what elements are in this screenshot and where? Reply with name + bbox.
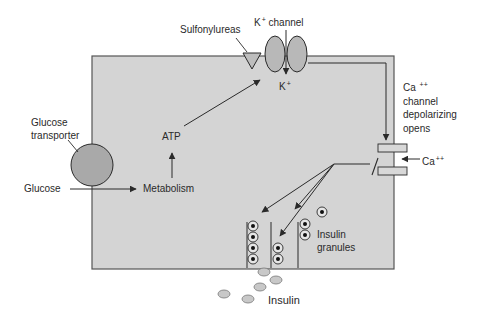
sulfonylureas-label: Sulfonylureas <box>180 24 241 36</box>
k-channel-left-subunit-icon <box>265 36 285 72</box>
insulin-molecule-icon <box>254 283 266 291</box>
insulin-molecule-icon <box>270 276 282 284</box>
ca-channel-ion: Ca <box>403 82 416 93</box>
ca-channel-line3: depolarizing <box>403 108 457 122</box>
ca-channel-charge: ++ <box>420 81 428 88</box>
k-channel-charge: + <box>262 16 266 23</box>
glucose-transporter-label: Glucose transporter <box>31 116 79 142</box>
glucose-transporter-icon <box>71 144 113 186</box>
diagram-graphics <box>0 0 478 313</box>
k-channel-right-subunit-icon <box>287 36 307 72</box>
k-channel-ion: K <box>254 17 261 28</box>
atp-label: ATP <box>162 131 181 143</box>
ca-ion-label: Ca++ <box>422 153 444 168</box>
k-ion-charge: + <box>287 80 291 87</box>
insulin-molecule-icon <box>242 295 254 303</box>
ca-channel-upper-gate-icon <box>378 144 407 152</box>
ca-ion-charge: ++ <box>436 155 444 162</box>
k-ion-label: K+ <box>279 78 291 93</box>
k-channel-word: channel <box>269 17 304 28</box>
k-ion: K <box>279 81 286 92</box>
insulin-molecule-icon <box>258 268 270 276</box>
ca-channel-line2: channel <box>403 95 457 109</box>
glucose-label: Glucose <box>24 183 61 195</box>
insulin-granules-label: Insulin granules <box>317 228 355 254</box>
glucose-transporter-line1: Glucose <box>31 116 79 129</box>
glucose-transporter-line2: transporter <box>31 129 79 142</box>
sulfonylureas-pointer <box>236 38 247 52</box>
insulin-granules-line2: granules <box>317 241 355 254</box>
insulin-granule-icon <box>300 230 310 240</box>
metabolism-label: Metabolism <box>143 183 194 195</box>
insulin-label: Insulin <box>268 294 300 306</box>
k-channel-label: K+ channel <box>254 14 304 29</box>
ca-ion: Ca <box>422 156 435 167</box>
insulin-granules-line1: Insulin <box>317 228 355 241</box>
insulin-granule-icon <box>248 243 258 253</box>
insulin-granule-icon <box>300 219 310 229</box>
insulin-granule-icon <box>248 254 258 264</box>
insulin-granule-icon <box>317 207 327 217</box>
insulin-granule-icon <box>273 254 283 264</box>
ca-channel-label: Ca ++ channel depolarizing opens <box>403 78 457 135</box>
ca-channel-line4: opens <box>403 122 457 136</box>
ca-channel-lower-gate-icon <box>378 167 407 175</box>
insulin-granule-icon <box>248 232 258 242</box>
insulin-granule-icon <box>273 243 283 253</box>
insulin-molecule-icon <box>218 290 230 298</box>
beta-cell-insulin-secretion-diagram: Sulfonylureas K+ channel K+ Ca ++ channe… <box>0 0 478 313</box>
insulin-granule-icon <box>248 221 258 231</box>
